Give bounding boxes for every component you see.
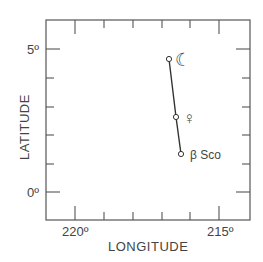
- venus-icon: ♀: [183, 109, 196, 128]
- top-ticks: [75, 20, 219, 34]
- right-ticks: [236, 49, 250, 192]
- beta-sco-label: β Sco: [190, 148, 221, 162]
- y-tick-5: 5º: [27, 42, 39, 57]
- moon-icon: ☾: [175, 50, 191, 70]
- bottom-ticks: [75, 206, 219, 220]
- plot-frame: [46, 20, 250, 220]
- point-moon: [166, 56, 171, 61]
- x-axis-title: LONGITUDE: [108, 239, 188, 254]
- left-ticks: [46, 49, 60, 192]
- point-venus: [173, 114, 178, 119]
- x-tick-220: 220º: [62, 224, 89, 239]
- y-tick-0: 0º: [27, 185, 39, 200]
- y-axis-title: LATITUDE: [17, 94, 32, 160]
- chart: 5º 0º 220º 215º LONGITUDE LATITUDE ☾ ♀ β…: [0, 0, 263, 262]
- point-beta-sco: [178, 151, 183, 156]
- data-line: [169, 59, 181, 154]
- x-tick-215: 215º: [207, 224, 234, 239]
